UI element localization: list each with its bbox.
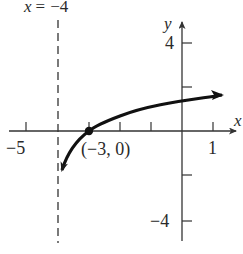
graph: x=−4 y x 4 −4 −5 1 (−3, 0) [0, 0, 243, 254]
x-ticks [26, 122, 213, 131]
point-label: (−3, 0) [81, 139, 130, 160]
xtick-label-1: 1 [208, 138, 217, 158]
xtick-label-neg5: −5 [6, 138, 25, 158]
asymptote-label: x=−4 [23, 0, 69, 16]
ytick-label-4: 4 [165, 33, 174, 53]
ytick-label-neg4: −4 [150, 211, 169, 231]
x-axis-label: x [233, 111, 242, 130]
y-ticks [182, 43, 192, 221]
y-axis-label: y [162, 14, 172, 33]
intercept-point [85, 127, 93, 135]
